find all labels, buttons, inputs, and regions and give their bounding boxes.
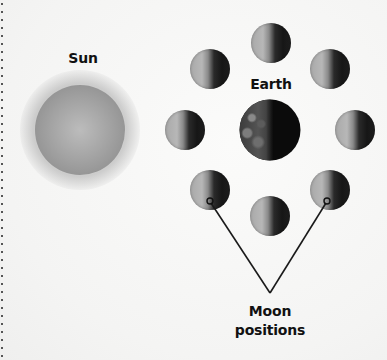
moon-pointer-lines [0, 0, 387, 360]
diagram-canvas: Sun Earth Moon positions [0, 0, 387, 360]
moon-positions-label-line2: positions [235, 322, 305, 338]
pointer-dot-left [207, 198, 213, 204]
pointer-line-right [270, 203, 326, 293]
moon-positions-label-line1: Moon [249, 303, 291, 319]
pointer-dot-right [324, 198, 330, 204]
pointer-line-left [211, 203, 270, 293]
